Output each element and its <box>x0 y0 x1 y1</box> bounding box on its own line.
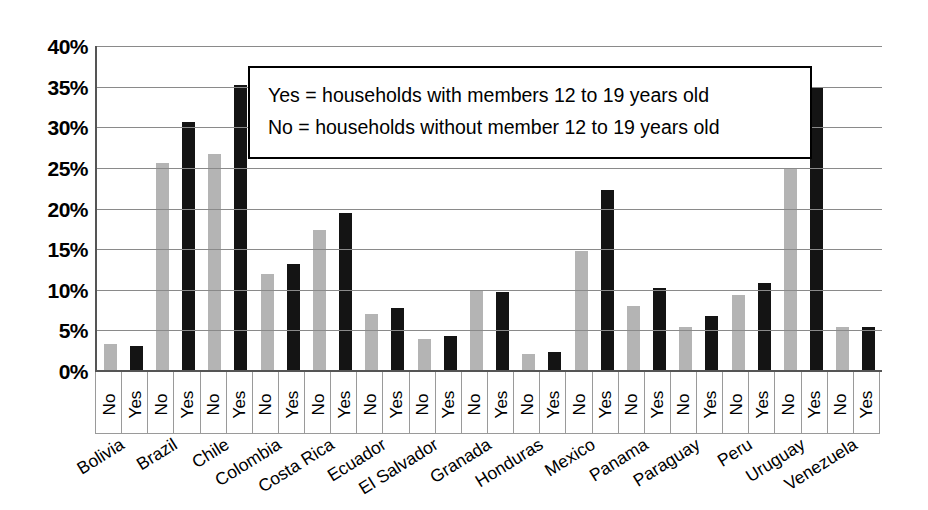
gridline <box>97 209 882 210</box>
x-subcategory-cell: Yes <box>644 372 670 433</box>
bar-panama-no <box>627 306 640 371</box>
x-subcategory-label: Yes <box>649 385 666 425</box>
x-subcategory-cell: No <box>253 372 278 433</box>
x-subcategory-cell: Yes <box>278 372 304 433</box>
x-cell-group: NoYes <box>356 372 408 433</box>
x-subcategory-label: Yes <box>178 385 195 425</box>
x-subcategory-cell: No <box>357 372 382 433</box>
x-subcategory-label: Yes <box>858 385 875 425</box>
x-subcategory-label: No <box>309 385 326 425</box>
gridline <box>97 290 882 291</box>
x-cell-group: NoYes <box>618 372 670 433</box>
x-subcategory-label: No <box>205 385 222 425</box>
x-subcategory-label: Yes <box>806 385 823 425</box>
bar-uruguay-no <box>784 169 797 371</box>
x-subcategory-cell: No <box>514 372 539 433</box>
y-tick-label: 40% <box>26 36 88 57</box>
bar-ecuador-yes <box>391 308 404 371</box>
x-subcategory-cell: No <box>305 372 330 433</box>
bar-venezuela-no <box>836 327 849 371</box>
x-subcategory-label: No <box>675 385 692 425</box>
x-subcategory-cell: No <box>410 372 435 433</box>
x-subcategory-label: Yes <box>597 385 614 425</box>
x-subcategory-label: No <box>518 385 535 425</box>
x-subcategory-label: No <box>780 385 797 425</box>
y-tick-label: 5% <box>26 320 88 341</box>
x-subcategory-label: Yes <box>701 385 718 425</box>
x-cell-group: NoYes <box>513 372 565 433</box>
x-subcategory-cell: Yes <box>226 372 252 433</box>
x-cell-group: NoYes <box>304 372 356 433</box>
bar-costa-rica-no <box>313 230 326 371</box>
x-subcategory-cell: No <box>775 372 800 433</box>
bar-granada-yes <box>496 292 509 371</box>
x-cell-group: NoYes <box>722 372 774 433</box>
x-cell-group: NoYes <box>409 372 461 433</box>
x-subcategory-cell: Yes <box>592 372 618 433</box>
x-subcategory-cell: Yes <box>173 372 199 433</box>
x-cell-group: NoYes <box>147 372 199 433</box>
x-subcategory-label: Yes <box>544 385 561 425</box>
bar-paraguay-no <box>679 327 692 371</box>
bar-chart: 40%35%30%25%20%15%10%5%0% Yes = househol… <box>0 0 928 510</box>
x-cell-group: NoYes <box>774 372 826 433</box>
bar-el-salvador-yes <box>444 336 457 371</box>
x-subcategory-label: No <box>832 385 849 425</box>
x-subcategory-label: Yes <box>753 385 770 425</box>
x-cell-group: NoYes <box>565 372 617 433</box>
bar-mexico-no <box>575 251 588 371</box>
x-subcategory-cell: Yes <box>853 372 879 433</box>
bar-colombia-yes <box>287 264 300 371</box>
x-subcategory-label: No <box>727 385 744 425</box>
x-subcategory-label: No <box>466 385 483 425</box>
x-subcategory-label: Yes <box>492 385 509 425</box>
x-subcategory-cell: No <box>566 372 591 433</box>
x-subcategory-cell: No <box>96 372 121 433</box>
x-subcategory-cell: No <box>462 372 487 433</box>
x-cell-group: NoYes <box>252 372 304 433</box>
bar-venezuela-yes <box>862 327 875 371</box>
x-subcategory-cell: No <box>201 372 226 433</box>
bar-honduras-yes <box>548 352 561 371</box>
x-subcategory-label: No <box>100 385 117 425</box>
y-axis: 40%35%30%25%20%15%10%5%0% <box>26 0 88 510</box>
bar-bolivia-no <box>104 344 117 371</box>
y-tick-label: 25% <box>26 157 88 178</box>
legend-line-no: No = households without member 12 to 19 … <box>268 112 794 144</box>
x-subcategory-cell: Yes <box>382 372 408 433</box>
x-subcategory-cell: Yes <box>330 372 356 433</box>
x-cell-group: NoYes <box>827 372 880 433</box>
y-tick-label: 35% <box>26 76 88 97</box>
x-subcategory-label: Yes <box>231 385 248 425</box>
x-subcategory-label: No <box>623 385 640 425</box>
bar-paraguay-yes <box>705 316 718 371</box>
gridline <box>97 168 882 169</box>
bar-colombia-no <box>261 274 274 372</box>
y-tick-label: 0% <box>26 361 88 382</box>
x-subcategory-cell: No <box>671 372 696 433</box>
x-axis-category-labels: BoliviaBrazilChileColombiaCosta RicaEcua… <box>95 434 880 510</box>
x-axis-subcategory-labels: NoYesNoYesNoYesNoYesNoYesNoYesNoYesNoYes… <box>95 372 880 434</box>
x-subcategory-label: Yes <box>388 385 405 425</box>
bar-ecuador-no <box>365 314 378 371</box>
x-subcategory-cell: No <box>148 372 173 433</box>
x-subcategory-label: No <box>570 385 587 425</box>
country-label: Brazil <box>132 434 180 475</box>
x-subcategory-cell: Yes <box>696 372 722 433</box>
x-subcategory-label: Yes <box>283 385 300 425</box>
x-subcategory-cell: No <box>723 372 748 433</box>
x-subcategory-label: Yes <box>126 385 143 425</box>
x-subcategory-cell: Yes <box>121 372 147 433</box>
gridline <box>97 46 882 47</box>
bar-chile-no <box>208 154 221 371</box>
x-subcategory-label: No <box>152 385 169 425</box>
x-subcategory-cell: No <box>619 372 644 433</box>
gridline <box>97 330 882 331</box>
bar-mexico-yes <box>601 190 614 371</box>
bar-brazil-yes <box>182 122 195 371</box>
y-tick-label: 30% <box>26 117 88 138</box>
bar-honduras-no <box>522 354 535 371</box>
x-cell-group: NoYes <box>200 372 252 433</box>
gridline <box>97 249 882 250</box>
x-subcategory-cell: Yes <box>748 372 774 433</box>
